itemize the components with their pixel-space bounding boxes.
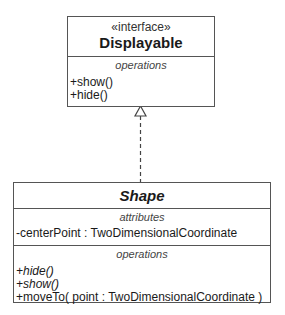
hollow-triangle-arrow-icon: [135, 106, 146, 116]
class-name: Displayable: [68, 34, 214, 51]
operations-label: operations: [14, 248, 270, 261]
stereotype-label: «interface»: [68, 21, 214, 34]
class-shape-box: Shape attributes -centerPoint : TwoDimen…: [13, 182, 271, 303]
attributes-label: attributes: [14, 211, 270, 224]
class-name: Shape: [14, 187, 270, 204]
class-header: Shape: [14, 183, 270, 208]
operations-section: operations +show() +hide(): [68, 56, 214, 107]
interface-header: «interface» Displayable: [68, 17, 214, 56]
operation: +hide(): [68, 89, 214, 102]
operations-section: operations +hide() +show() +moveTo( poin…: [14, 245, 270, 302]
interface-displayable-box: «interface» Displayable operations +show…: [67, 16, 215, 107]
operations-label: operations: [68, 59, 214, 72]
attributes-section: attributes -centerPoint : TwoDimensional…: [14, 208, 270, 245]
attribute: -centerPoint : TwoDimensionalCoordinate: [14, 227, 270, 240]
operation: +moveTo( point : TwoDimensionalCoordinat…: [14, 291, 270, 304]
